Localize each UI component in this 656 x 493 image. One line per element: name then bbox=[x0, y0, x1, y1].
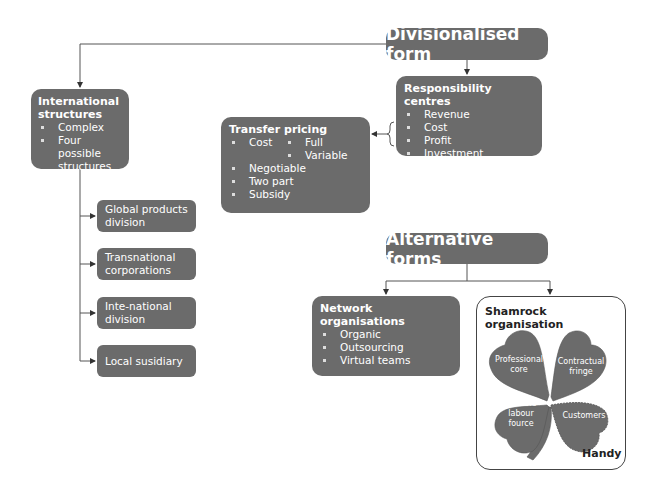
shamrock-icon bbox=[477, 297, 627, 471]
list-item: Outsourcing bbox=[320, 341, 452, 354]
leaf-professional-core: Professional core bbox=[493, 355, 545, 375]
network-organisations-node: Network organisations Organic Outsourcin… bbox=[312, 296, 460, 376]
transfer-pricing-cost-subitems: Full Variable bbox=[285, 136, 348, 162]
transfer-pricing-cost: Cost bbox=[229, 136, 285, 162]
transfer-pricing-list: Negotiable Two part Subsidy bbox=[229, 162, 362, 201]
network-organisations-heading: Network organisations bbox=[320, 302, 452, 328]
list-item: Cost bbox=[404, 121, 534, 134]
shamrock-organisation-node: Shamrock organisation Professional core … bbox=[476, 296, 626, 470]
list-item: Organic bbox=[320, 328, 452, 341]
list-item: Profit bbox=[404, 134, 534, 147]
divisionalised-form-title: Divisionalised form bbox=[386, 24, 548, 64]
list-item: Revenue bbox=[404, 108, 534, 121]
structure-label: Inte-national division bbox=[105, 300, 188, 326]
local-subsidiary-node: Local susidiary bbox=[97, 345, 196, 377]
network-organisations-list: Organic Outsourcing Virtual teams bbox=[320, 328, 452, 367]
list-item: Four possible structures bbox=[38, 134, 122, 173]
alternative-forms-title: Alternative forms bbox=[386, 229, 548, 269]
structure-label: Transnational corporations bbox=[105, 251, 188, 277]
leaf-customers: Customers bbox=[561, 411, 607, 421]
international-division-node: Inte-national division bbox=[97, 297, 196, 329]
transfer-pricing-node: Transfer pricing Cost Full Variable Nego… bbox=[221, 117, 370, 213]
alternative-forms-node: Alternative forms bbox=[386, 233, 548, 264]
list-item: Virtual teams bbox=[320, 354, 452, 367]
international-structures-list: Complex Four possible structures bbox=[38, 121, 122, 173]
transnational-corporations-node: Transnational corporations bbox=[97, 248, 196, 280]
international-structures-node: International structures Complex Four po… bbox=[31, 89, 129, 169]
list-item: Negotiable bbox=[229, 162, 362, 175]
list-item: Investment bbox=[404, 147, 534, 160]
list-item: Variable bbox=[285, 149, 348, 162]
global-products-division-node: Global products division bbox=[97, 200, 196, 232]
shamrock-author: Handy bbox=[582, 447, 622, 460]
list-item: Two part bbox=[229, 175, 362, 188]
leaf-contractual-fringe: Contractual fringe bbox=[557, 357, 605, 377]
list-item: Complex bbox=[38, 121, 122, 134]
divisionalised-form-node: Divisionalised form bbox=[386, 28, 548, 60]
list-item: Cost bbox=[229, 136, 285, 149]
list-item: Subsidy bbox=[229, 188, 362, 201]
responsibility-centres-node: Responsibility centres Revenue Cost Prof… bbox=[396, 76, 542, 156]
international-structures-heading: International structures bbox=[38, 95, 122, 121]
responsibility-centres-heading: Responsibility centres bbox=[404, 82, 534, 108]
list-item: Full bbox=[285, 136, 348, 149]
structure-label: Global products division bbox=[105, 203, 188, 229]
responsibility-centres-list: Revenue Cost Profit Investment bbox=[404, 108, 534, 160]
leaf-flexible-labour-force: Flexible labour fource bbox=[499, 399, 543, 429]
structure-label: Local susidiary bbox=[105, 355, 183, 368]
transfer-pricing-heading: Transfer pricing bbox=[229, 123, 362, 136]
